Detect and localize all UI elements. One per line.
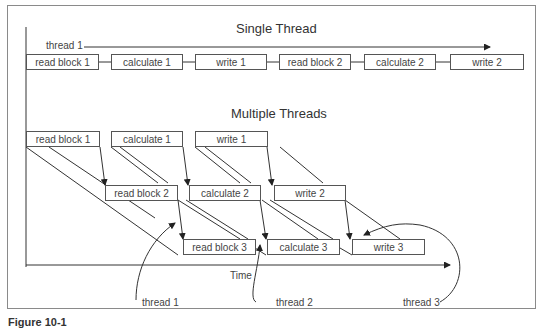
multi-box-write-2: write 2 [274,185,346,201]
single-box-write-2: write 2 [450,54,524,70]
thread-1-label: thread 1 [46,40,83,51]
multi-box-write-3: write 3 [352,239,425,255]
single-box-write-1: write 1 [195,54,267,70]
multi-box-calculate-3: calculate 3 [267,239,340,255]
single-thread-title: Single Thread [236,21,317,36]
thread-1-annotation: thread 1 [142,297,179,308]
multi-box-read-block-2: read block 2 [105,185,178,201]
time-axis-label: Time [230,270,252,281]
figure-caption: Figure 10-1 [8,316,67,328]
multi-box-read-block-3: read block 3 [183,239,256,255]
multi-box-write-1: write 1 [195,131,268,147]
single-box-read-block-1: read block 1 [26,54,99,70]
thread-2-annotation: thread 2 [276,297,313,308]
single-box-calculate-2: calculate 2 [364,54,436,70]
single-box-calculate-1: calculate 1 [111,54,183,70]
multi-box-calculate-1: calculate 1 [111,131,183,147]
multi-box-read-block-1: read block 1 [26,131,100,147]
single-box-read-block-2: read block 2 [279,54,351,70]
thread-3-annotation: thread 3 [403,297,440,308]
multiple-threads-title: Multiple Threads [231,106,327,121]
multi-box-calculate-2: calculate 2 [189,185,261,201]
